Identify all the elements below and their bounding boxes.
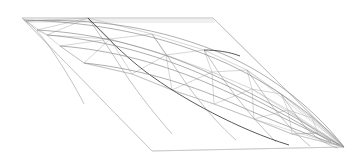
canvas-background [0, 0, 356, 168]
figure-canvas [0, 0, 356, 168]
surface-wireframe-svg [0, 0, 356, 168]
